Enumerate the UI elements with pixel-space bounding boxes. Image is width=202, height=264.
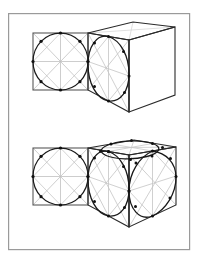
ellipse-dot-lower-right (123, 206, 126, 209)
ellipse-dot-lower-left (134, 205, 137, 208)
ellipse-dot-upper-mid (130, 139, 133, 142)
ellipse-dot-left (87, 175, 90, 178)
ellipse-dot-right (151, 155, 154, 158)
dot-lower-left-diagonal (39, 195, 42, 198)
geometric-construction-illustration (0, 0, 202, 264)
ellipse-dot-lower-left (93, 85, 96, 88)
ellipse-dot-lower-left (99, 150, 102, 153)
ellipse-dot-lower-right (123, 91, 126, 94)
ellipse-dot-upper-right (169, 157, 172, 160)
ellipse-dot-bottom (107, 100, 110, 103)
dot-lower-left-diagonal (39, 80, 42, 83)
ellipse-dot-top (107, 35, 110, 38)
dot-upper-left-diagonal (39, 40, 42, 43)
ellipse-dot-bottom (151, 215, 154, 218)
orthographic-square-bottom (31, 146, 89, 206)
dot-lower-right-diagonal (78, 80, 81, 83)
ellipse-dot-upper-left (135, 162, 138, 165)
ellipse-dot-left (87, 60, 90, 63)
ellipse-dot-lower-left (93, 200, 96, 203)
dot-top (59, 146, 62, 149)
ellipse-dot-upper-left (93, 42, 96, 45)
dot-upper-right-diagonal (78, 40, 81, 43)
ellipse-dot-lower-mid (129, 158, 132, 161)
ellipse-dot-bottom (107, 215, 110, 218)
ellipse-dot-upper-right (122, 165, 125, 168)
ellipse-dot-upper-left (93, 157, 96, 160)
dot-upper-right-diagonal (78, 155, 81, 158)
dot-bottom (59, 203, 62, 206)
ellipse-dot-lower-right (169, 197, 172, 200)
ellipse-dot-near (107, 150, 110, 153)
drawing-canvas (0, 0, 202, 264)
dot-bottom (59, 88, 62, 91)
ellipse-dot-left (110, 143, 113, 146)
ellipse-dot-far (151, 142, 154, 145)
orthographic-square-top (31, 31, 89, 91)
ellipse-dot-right (128, 75, 131, 78)
ellipse-dot-upper-right (161, 146, 164, 149)
ellipse-dot-left (128, 190, 131, 193)
ellipse-dot-top (151, 150, 154, 153)
dot-left (31, 60, 34, 63)
dot-left (31, 175, 34, 178)
dot-upper-left-diagonal (39, 155, 42, 158)
dot-lower-right-diagonal (78, 195, 81, 198)
ellipse-dot-right (175, 175, 178, 178)
dot-top (59, 31, 62, 34)
ellipse-dot-upper-right (122, 50, 125, 53)
